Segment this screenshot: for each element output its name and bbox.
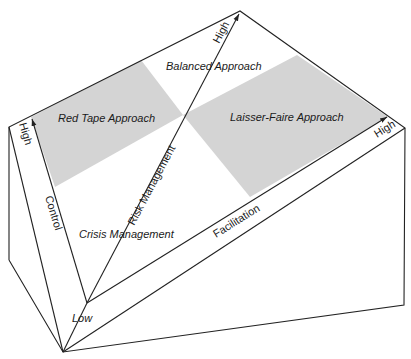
- crisis-management-label: Crisis Management: [79, 228, 175, 240]
- laisser-faire-label: Laisser-Faire Approach: [230, 111, 344, 123]
- risk-approach-diagram: Red Tape Approach Balanced Approach Lais…: [0, 0, 411, 359]
- risk-high-label: High: [210, 19, 231, 45]
- control-high-label: High: [17, 121, 35, 146]
- laisser-faire-region: [183, 55, 388, 197]
- risk-management-axis-label: Risk Management: [125, 143, 177, 227]
- balanced-label: Balanced Approach: [166, 60, 262, 72]
- origin-low-label: Low: [72, 312, 93, 324]
- facilitation-axis-label: Facilitation: [211, 202, 262, 240]
- control-axis-label: Control: [43, 194, 65, 231]
- red-tape-label: Red Tape Approach: [58, 112, 155, 124]
